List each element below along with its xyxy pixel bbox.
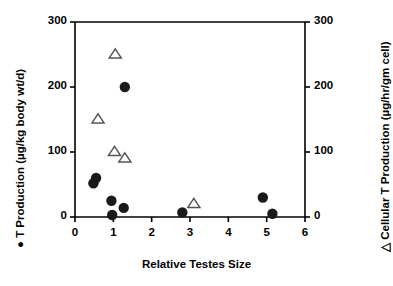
x-tick-label-2: 2: [138, 226, 166, 238]
x-tick-label-3: 3: [176, 226, 204, 238]
plot-canvas: [0, 0, 393, 286]
point-circle-s0-4: [118, 203, 128, 213]
point-circle-s0-1: [91, 173, 101, 183]
figure-scatter-plot: Relative Testes Size ● T Production (µg/…: [0, 0, 393, 286]
point-triangle-s1-0: [92, 114, 104, 123]
point-circle-s0-7: [258, 192, 268, 202]
y-right-tick-label-0: 0: [314, 209, 356, 221]
point-circle-s0-6: [177, 207, 187, 217]
point-circle-s0-2: [106, 196, 116, 206]
x-tick-label-6: 6: [291, 226, 319, 238]
y-axis-title-left: ● T Production (µg/kg body wt/d): [14, 69, 26, 248]
data-points: [88, 49, 277, 220]
y-left-tick-label-100: 100: [25, 144, 67, 156]
y-right-tick-label-200: 200: [314, 79, 356, 91]
y-left-tick-label-300: 300: [25, 14, 67, 26]
x-tick-label-4: 4: [214, 226, 242, 238]
point-triangle-s1-2: [108, 146, 120, 155]
y-left-tick-label-200: 200: [25, 79, 67, 91]
point-triangle-s1-4: [188, 198, 200, 207]
point-triangle-s1-3: [119, 153, 131, 162]
y-left-tick-label-0: 0: [25, 209, 67, 221]
point-circle-s0-8: [267, 209, 277, 219]
point-triangle-s1-1: [109, 49, 121, 58]
x-tick-label-1: 1: [99, 226, 127, 238]
point-circle-s0-3: [107, 210, 117, 220]
point-circle-s0-5: [120, 82, 130, 92]
axis-ticks: [70, 22, 310, 222]
plot-frame: [75, 22, 305, 217]
x-axis-title: Relative Testes Size: [0, 258, 393, 270]
y-right-tick-label-300: 300: [314, 14, 356, 26]
x-tick-label-0: 0: [61, 226, 89, 238]
y-axis-title-right: △ Cellular T Production (µg/hr/gm cell): [378, 41, 392, 252]
y-right-tick-label-100: 100: [314, 144, 356, 156]
x-tick-label-5: 5: [253, 226, 281, 238]
